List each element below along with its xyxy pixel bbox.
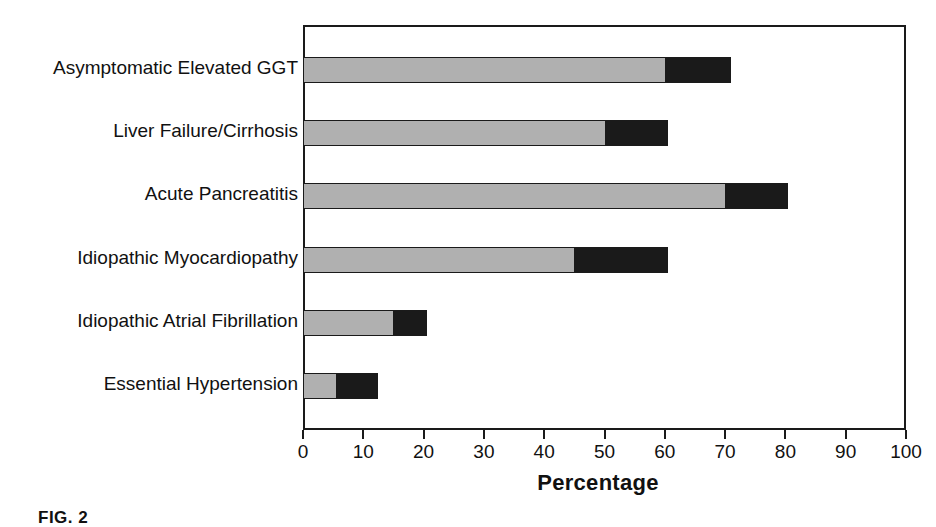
- category-label-2: Liver Failure/Cirrhosis: [0, 118, 298, 144]
- tick-label-80: 80: [755, 441, 815, 463]
- plot-area: [303, 25, 906, 430]
- bar-5-black-segment: [393, 310, 426, 336]
- tick-mark-80: [784, 430, 786, 439]
- bar-4: [303, 247, 668, 273]
- x-axis-title: Percentage: [0, 470, 936, 496]
- bar-1-gray-segment: [303, 57, 665, 83]
- bar-3-black-segment: [725, 183, 788, 209]
- tick-mark-90: [845, 430, 847, 439]
- category-label-3: Acute Pancreatitis: [0, 181, 298, 207]
- tick-mark-40: [543, 430, 545, 439]
- bar-6-gray-segment: [303, 373, 336, 399]
- bar-5-gray-segment: [303, 310, 393, 336]
- tick-label-40: 40: [514, 441, 574, 463]
- tick-mark-70: [724, 430, 726, 439]
- tick-mark-10: [362, 430, 364, 439]
- bar-5: [303, 310, 427, 336]
- tick-mark-30: [483, 430, 485, 439]
- tick-label-90: 90: [816, 441, 876, 463]
- bar-6: [303, 373, 378, 399]
- bar-2-black-segment: [605, 120, 668, 146]
- tick-label-10: 10: [333, 441, 393, 463]
- bar-1-black-segment: [665, 57, 731, 83]
- bar-2: [303, 120, 668, 146]
- figure-caption: FIG. 2: [38, 508, 88, 527]
- tick-label-50: 50: [575, 441, 635, 463]
- tick-label-70: 70: [695, 441, 755, 463]
- tick-mark-0: [302, 430, 304, 439]
- bar-3-gray-segment: [303, 183, 725, 209]
- category-label-1: Asymptomatic Elevated GGT: [0, 55, 298, 81]
- category-label-4: Idiopathic Myocardiopathy: [0, 245, 298, 271]
- bar-1: [303, 57, 731, 83]
- category-label-6: Essential Hypertension: [0, 371, 298, 397]
- bar-4-black-segment: [574, 247, 667, 273]
- tick-label-0: 0: [273, 441, 333, 463]
- x-axis-title-text: Percentage: [537, 470, 659, 496]
- tick-mark-50: [604, 430, 606, 439]
- tick-mark-60: [664, 430, 666, 439]
- tick-label-100: 100: [876, 441, 936, 463]
- tick-mark-100: [905, 430, 907, 439]
- tick-label-20: 20: [394, 441, 454, 463]
- bar-2-gray-segment: [303, 120, 605, 146]
- bar-6-black-segment: [336, 373, 378, 399]
- category-label-5: Idiopathic Atrial Fibrillation: [0, 308, 298, 334]
- tick-mark-20: [423, 430, 425, 439]
- bar-4-gray-segment: [303, 247, 574, 273]
- bar-3: [303, 183, 788, 209]
- tick-label-60: 60: [635, 441, 695, 463]
- tick-label-30: 30: [454, 441, 514, 463]
